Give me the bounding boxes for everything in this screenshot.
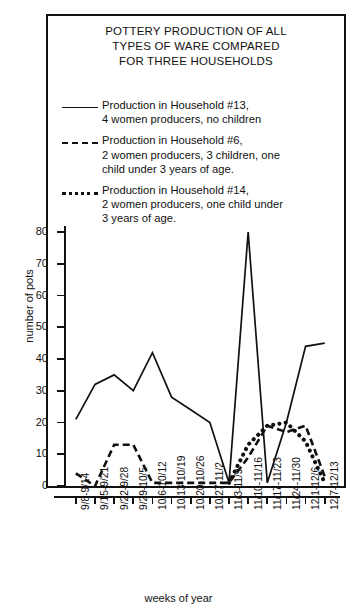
figure-root: POTTERY PRODUCTION OF ALL TYPES OF WARE …	[0, 0, 357, 613]
series-lines	[0, 0, 357, 613]
series-line-dashed	[76, 426, 325, 486]
